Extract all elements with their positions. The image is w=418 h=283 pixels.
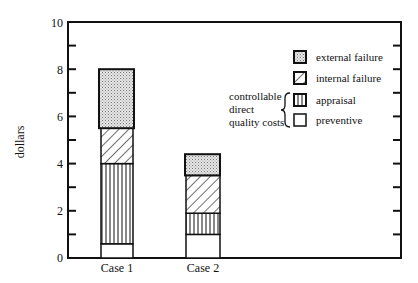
- ytick-4: 4: [57, 157, 63, 171]
- legend-item-internal-failure: internal failure: [294, 72, 381, 84]
- bracket-label-line-3: quality costs: [229, 116, 284, 128]
- xtick-case-2: Case 2: [187, 261, 219, 275]
- legend: external failure internal failure apprai…: [229, 51, 383, 128]
- segment-preventive: [186, 234, 220, 258]
- y-axis-ticks-right: [393, 46, 401, 235]
- y-axis-label: dollars: [13, 125, 27, 158]
- bar-case-1: [99, 69, 134, 258]
- ytick-2: 2: [57, 204, 63, 218]
- y-tick-labels: 0 2 4 6 8 10: [51, 16, 63, 265]
- legend-swatch-hatch: [294, 72, 306, 84]
- chart-canvas: 0 2 4 6 8 10 dollars Case 1 Case 2 exter…: [0, 0, 418, 283]
- y-axis-ticks-left: [68, 46, 76, 235]
- ytick-8: 8: [57, 63, 63, 77]
- segment-internal-failure: [101, 128, 133, 163]
- legend-label: internal failure: [316, 72, 381, 84]
- legend-swatch-blank: [294, 114, 306, 126]
- segment-appraisal: [101, 164, 133, 244]
- ytick-0: 0: [57, 251, 63, 265]
- legend-swatch-vlines: [294, 94, 306, 106]
- bracket-label-line-2: direct: [229, 103, 254, 115]
- x-tick-labels: Case 1 Case 2: [101, 261, 219, 275]
- legend-swatch-stipple: [294, 51, 306, 63]
- legend-item-preventive: preventive: [294, 114, 363, 126]
- segment-appraisal: [186, 213, 220, 234]
- legend-bracket-annotation: controllable direct quality costs: [229, 90, 290, 128]
- xtick-case-1: Case 1: [101, 261, 133, 275]
- legend-item-external-failure: external failure: [294, 51, 383, 63]
- bar-case-2: [185, 154, 220, 258]
- legend-label: appraisal: [316, 94, 356, 106]
- segment-external-failure: [99, 69, 134, 128]
- ytick-10: 10: [51, 16, 63, 30]
- segment-external-failure: [185, 154, 220, 175]
- bracket-label-line-1: controllable: [229, 90, 282, 102]
- legend-label: external failure: [316, 51, 383, 63]
- segment-preventive: [101, 244, 133, 258]
- legend-item-appraisal: appraisal: [294, 94, 356, 106]
- ytick-6: 6: [57, 110, 63, 124]
- legend-label: preventive: [316, 114, 363, 126]
- segment-internal-failure: [186, 175, 220, 213]
